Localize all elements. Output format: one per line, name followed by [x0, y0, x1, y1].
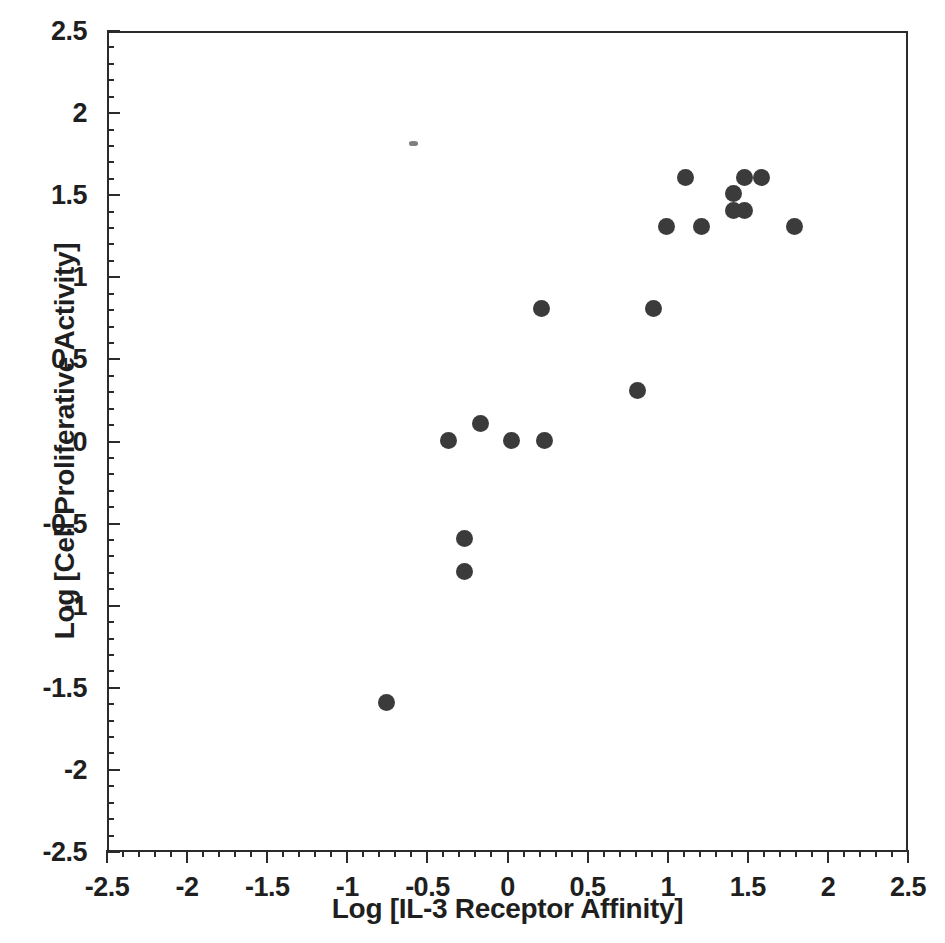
- y-axis-major-tick: [107, 194, 120, 196]
- y-axis-major-tick: [107, 441, 120, 443]
- y-axis-minor-tick: [107, 555, 114, 557]
- data-point: [786, 218, 803, 235]
- x-axis-minor-tick: [715, 850, 717, 857]
- x-axis-minor-tick: [250, 850, 252, 857]
- x-axis-minor-tick: [619, 850, 621, 857]
- x-axis-minor-tick: [490, 850, 492, 857]
- y-axis-minor-tick: [107, 408, 114, 410]
- y-axis-minor-tick: [107, 96, 114, 98]
- scan-artifact-speck: [409, 141, 418, 146]
- y-axis-major-tick: [107, 605, 120, 607]
- y-axis-minor-tick: [107, 457, 114, 459]
- y-axis-minor-tick: [107, 785, 114, 787]
- x-axis-minor-tick: [378, 850, 380, 857]
- x-axis-minor-tick: [314, 850, 316, 857]
- x-axis-major-tick: [507, 850, 509, 863]
- y-axis-minor-tick: [107, 79, 114, 81]
- y-axis-minor-tick: [107, 46, 114, 48]
- x-axis-minor-tick: [474, 850, 476, 857]
- y-axis-minor-tick: [107, 309, 114, 311]
- data-point: [503, 432, 520, 449]
- data-point: [658, 218, 675, 235]
- x-axis-minor-tick: [875, 850, 877, 857]
- x-axis-minor-tick: [635, 850, 637, 857]
- y-axis-minor-tick: [107, 473, 114, 475]
- y-axis-minor-tick: [107, 736, 114, 738]
- y-axis-ticks: [107, 31, 121, 852]
- data-point: [536, 432, 553, 449]
- x-axis-minor-tick: [555, 850, 557, 857]
- data-points-layer: [109, 33, 906, 850]
- x-axis-minor-tick: [731, 850, 733, 857]
- y-axis-minor-tick: [107, 588, 114, 590]
- data-point: [456, 563, 473, 580]
- x-axis-minor-tick: [699, 850, 701, 857]
- y-axis-minor-tick: [107, 227, 114, 229]
- data-point: [725, 185, 742, 202]
- y-axis-major-tick: [107, 112, 120, 114]
- y-axis-minor-tick: [107, 506, 114, 508]
- scatter-plot-figure: -2.5-2-1.5-1-0.500.511.522.5 -2.5-2-1.5-…: [0, 0, 945, 943]
- x-axis-major-tick: [266, 850, 268, 863]
- y-axis-major-tick: [107, 358, 120, 360]
- x-axis-minor-tick: [234, 850, 236, 857]
- y-axis-minor-tick: [107, 638, 114, 640]
- y-axis-minor-tick: [107, 539, 114, 541]
- x-axis-minor-tick: [154, 850, 156, 857]
- x-axis-minor-tick: [298, 850, 300, 857]
- y-axis-major-tick: [107, 276, 120, 278]
- y-axis-minor-tick: [107, 145, 114, 147]
- x-axis-minor-tick: [394, 850, 396, 857]
- y-axis-minor-tick: [107, 342, 114, 344]
- x-axis-minor-tick: [811, 850, 813, 857]
- data-point: [736, 202, 753, 219]
- data-point: [736, 169, 753, 186]
- x-axis-ticks: -2.5-2-1.5-1-0.500.511.522.5: [107, 850, 908, 864]
- x-axis-minor-tick: [523, 850, 525, 857]
- x-axis-minor-tick: [603, 850, 605, 857]
- data-point: [440, 432, 457, 449]
- x-axis-major-tick: [827, 850, 829, 863]
- x-axis-minor-tick: [571, 850, 573, 857]
- x-axis-title: Log [IL-3 Receptor Affinity]: [107, 893, 908, 925]
- x-axis-minor-tick: [539, 850, 541, 857]
- x-axis-minor-tick: [330, 850, 332, 857]
- x-axis-minor-tick: [763, 850, 765, 857]
- x-axis-minor-tick: [651, 850, 653, 857]
- y-axis-minor-tick: [107, 129, 114, 131]
- x-axis-minor-tick: [282, 850, 284, 857]
- x-axis-minor-tick: [122, 850, 124, 857]
- x-axis-minor-tick: [683, 850, 685, 857]
- x-axis-minor-tick: [891, 850, 893, 857]
- y-axis-major-tick: [107, 30, 120, 32]
- x-axis-minor-tick: [843, 850, 845, 857]
- x-axis-minor-tick: [218, 850, 220, 857]
- x-axis-minor-tick: [795, 850, 797, 857]
- y-axis-title: Log [Cell Proliferative Activity]: [49, 31, 81, 851]
- data-point: [378, 694, 395, 711]
- y-axis-minor-tick: [107, 703, 114, 705]
- y-axis-minor-tick: [107, 63, 114, 65]
- x-axis-major-tick: [587, 850, 589, 863]
- x-axis-major-tick: [667, 850, 669, 863]
- data-point: [533, 300, 550, 317]
- x-axis-major-tick: [426, 850, 428, 863]
- x-axis-minor-tick: [202, 850, 204, 857]
- x-axis-minor-tick: [779, 850, 781, 857]
- y-axis-minor-tick: [107, 260, 114, 262]
- y-axis-minor-tick: [107, 391, 114, 393]
- data-point: [693, 218, 710, 235]
- y-axis-minor-tick: [107, 424, 114, 426]
- y-axis-major-tick: [107, 769, 120, 771]
- data-point: [753, 169, 770, 186]
- y-axis-minor-tick: [107, 835, 114, 837]
- y-axis-minor-tick: [107, 211, 114, 213]
- y-axis-minor-tick: [107, 161, 114, 163]
- y-axis-minor-tick: [107, 802, 114, 804]
- data-point: [677, 169, 694, 186]
- y-axis-minor-tick: [107, 621, 114, 623]
- data-point: [472, 415, 489, 432]
- y-axis-minor-tick: [107, 572, 114, 574]
- y-axis-minor-tick: [107, 720, 114, 722]
- y-axis-minor-tick: [107, 490, 114, 492]
